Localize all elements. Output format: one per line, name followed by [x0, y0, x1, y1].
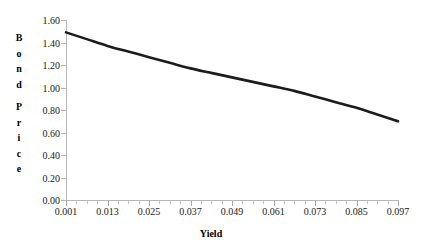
- y-axis-title-gap: [10, 92, 28, 99]
- y-axis-title-letter: r: [10, 115, 28, 131]
- x-axis-title: Yield: [0, 228, 422, 239]
- y-axis-tick-label: 1.20: [28, 60, 60, 71]
- y-axis-tick-label: 1.60: [28, 15, 60, 26]
- bond-price-curve-path: [66, 32, 398, 121]
- x-axis-minor-tick-mark: [76, 201, 77, 204]
- x-axis-minor-tick-mark: [201, 201, 202, 204]
- x-axis-minor-tick-mark: [294, 201, 295, 204]
- x-axis-minor-tick-mark: [118, 201, 119, 204]
- x-axis-tick-label: 0.013: [96, 206, 119, 217]
- x-axis-minor-tick-mark: [377, 201, 378, 204]
- x-axis-tick-label: 0.085: [345, 206, 368, 217]
- y-axis-title-letter: P: [10, 99, 28, 115]
- x-axis-minor-tick-mark: [170, 201, 171, 204]
- y-axis-tick-label: 0.80: [28, 105, 60, 116]
- x-axis-minor-tick-mark: [128, 201, 129, 204]
- x-axis-minor-tick-mark: [87, 201, 88, 204]
- x-axis-minor-tick-mark: [180, 201, 181, 204]
- x-axis-minor-tick-mark: [263, 201, 264, 204]
- y-axis-tick-label: 0.20: [28, 172, 60, 183]
- x-axis-minor-tick-mark: [242, 201, 243, 204]
- bond-price-curve: [66, 20, 398, 200]
- y-axis-tick-label: 0.60: [28, 127, 60, 138]
- x-axis-tick-label: 0.037: [179, 206, 202, 217]
- x-axis-minor-tick-mark: [367, 201, 368, 204]
- x-axis-minor-tick-mark: [325, 201, 326, 204]
- x-axis-tick-label: 0.049: [221, 206, 244, 217]
- y-axis-tick-label: 1.40: [28, 37, 60, 48]
- x-axis-minor-tick-mark: [159, 201, 160, 204]
- x-axis-tick-label: 0.073: [304, 206, 327, 217]
- y-axis-title-letter: B: [10, 30, 28, 46]
- y-axis-tick-label: 0.00: [28, 195, 60, 206]
- bond-price-yield-chart: BondPrice 0.000.200.400.600.801.001.201.…: [0, 0, 422, 248]
- x-axis-minor-tick-mark: [284, 201, 285, 204]
- y-axis-title: BondPrice: [10, 30, 28, 177]
- y-axis-title-letter: e: [10, 161, 28, 177]
- x-axis-tick-label: 0.001: [55, 206, 78, 217]
- y-axis-title-letter: i: [10, 130, 28, 146]
- plot-area: [66, 20, 398, 200]
- x-axis-tick-labels: 0.0010.0130.0250.0370.0490.0610.0730.085…: [0, 206, 422, 222]
- y-axis-tick-label: 0.40: [28, 150, 60, 161]
- x-axis-minor-tick-mark: [253, 201, 254, 204]
- y-axis-title-letter: d: [10, 77, 28, 93]
- x-axis-minor-tick-mark: [97, 201, 98, 204]
- x-axis-minor-tick-mark: [388, 201, 389, 204]
- x-axis-tick-label: 0.025: [138, 206, 161, 217]
- x-axis-minor-tick-mark: [336, 201, 337, 204]
- y-axis-title-letter: c: [10, 146, 28, 162]
- x-axis-minor-tick-mark: [211, 201, 212, 204]
- x-axis-minor-tick-mark: [139, 201, 140, 204]
- y-axis-tick-label: 1.00: [28, 82, 60, 93]
- x-axis-minor-tick-mark: [346, 201, 347, 204]
- y-axis-title-letter: n: [10, 61, 28, 77]
- x-axis-tick-label: 0.061: [262, 206, 285, 217]
- y-axis-title-letter: o: [10, 46, 28, 62]
- x-axis-minor-tick-mark: [222, 201, 223, 204]
- x-axis-tick-label: 0.097: [387, 206, 410, 217]
- x-axis-minor-tick-mark: [305, 201, 306, 204]
